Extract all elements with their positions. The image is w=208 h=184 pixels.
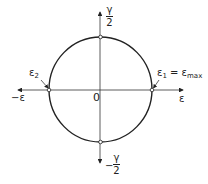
point-top — [99, 35, 103, 39]
origin-label: 0 — [93, 92, 100, 103]
max-subscript: max — [187, 72, 202, 80]
mohr-circle — [49, 37, 152, 142]
eps1-leader — [154, 80, 160, 88]
point-eps1 — [150, 88, 154, 92]
pos-epsilon-label: ε — [179, 94, 184, 104]
gamma-half-label: γ 2 — [106, 5, 113, 28]
eps1-label: ε1 = εmax — [157, 68, 202, 80]
gamma-numerator: γ — [114, 153, 120, 163]
mohr-circle-diagram — [0, 0, 208, 184]
eps2-label: ε2 — [29, 68, 39, 80]
gamma-denominator: 2 — [106, 18, 112, 28]
gamma-numerator: γ — [107, 5, 113, 15]
neg-gamma-half-label: γ 2 — [113, 153, 120, 176]
point-eps2 — [47, 88, 51, 92]
neg-epsilon-label: −ε — [11, 93, 25, 103]
equals-eps: = ε — [167, 67, 187, 78]
eps2-leader — [41, 80, 48, 88]
eps-subscript: 2 — [34, 72, 38, 80]
point-bottom — [99, 140, 103, 144]
gamma-denominator: 2 — [113, 166, 119, 176]
